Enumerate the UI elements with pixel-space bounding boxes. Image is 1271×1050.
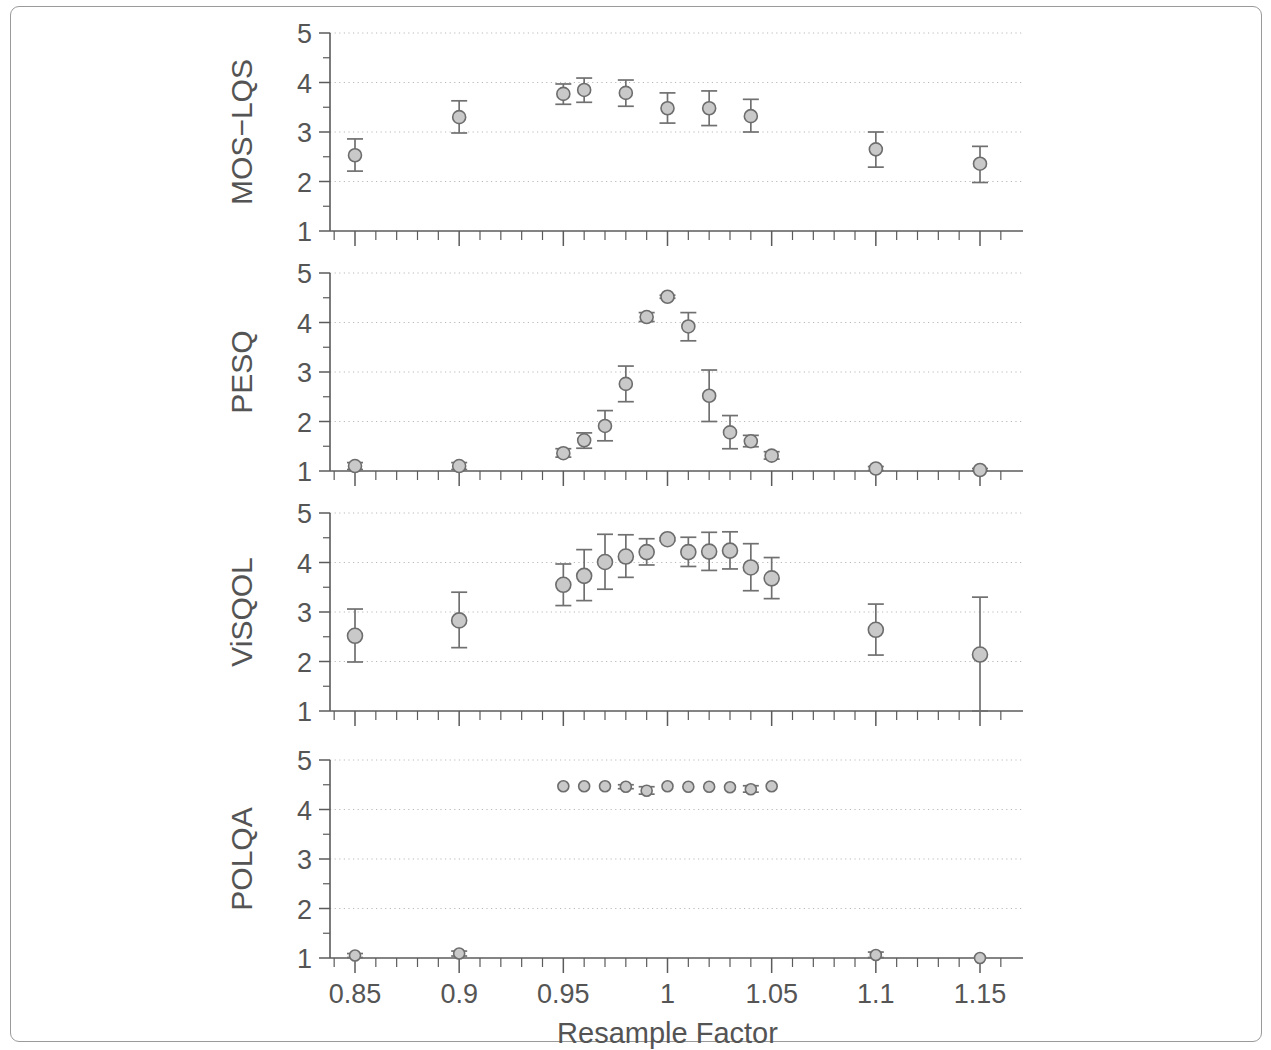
data-point-marker	[660, 532, 675, 547]
data-point-marker	[703, 389, 716, 402]
data-point-marker	[619, 377, 632, 390]
data-point-marker	[598, 555, 613, 570]
y-tick-label: 2	[297, 408, 312, 438]
x-tick-label: 1.05	[745, 979, 798, 1009]
y-tick-label: 3	[297, 845, 312, 875]
data-point-marker	[578, 434, 591, 447]
data-point-marker	[869, 462, 882, 475]
panel-polqa: 12345POLQA	[225, 746, 1023, 974]
data-point-marker	[558, 781, 569, 792]
y-tick-label: 5	[297, 259, 312, 289]
data-point-marker	[349, 460, 362, 473]
data-point-marker	[681, 545, 696, 560]
data-point-marker	[745, 784, 756, 795]
y-tick-label: 5	[297, 499, 312, 529]
data-point-marker	[619, 86, 632, 99]
data-point-marker	[578, 83, 591, 96]
x-axis-title: Resample Factor	[557, 1017, 778, 1049]
data-point-marker	[661, 102, 674, 115]
panel-visqol: 12345ViSQOL	[225, 499, 1023, 727]
multi-panel-chart: 12345MOS−LQS12345PESQ12345ViSQOL12345POL…	[0, 0, 1271, 1050]
data-point-marker	[640, 311, 653, 324]
data-point-marker	[766, 781, 777, 792]
data-point-marker	[869, 143, 882, 156]
data-point-marker	[973, 647, 988, 662]
y-tick-label: 1	[297, 217, 312, 247]
data-point-marker	[703, 102, 716, 115]
y-tick-label: 2	[297, 648, 312, 678]
y-tick-label: 4	[297, 549, 312, 579]
data-point-marker	[870, 950, 881, 961]
data-point-marker	[868, 622, 883, 637]
y-tick-label: 1	[297, 457, 312, 487]
data-point-marker	[577, 568, 592, 583]
data-point-marker	[974, 464, 987, 477]
data-point-marker	[974, 157, 987, 170]
data-point-marker	[975, 953, 986, 964]
data-point-marker	[764, 571, 779, 586]
data-point-marker	[704, 781, 715, 792]
data-point-marker	[599, 419, 612, 432]
data-point-marker	[723, 543, 738, 558]
y-tick-label: 5	[297, 746, 312, 776]
data-point-marker	[579, 781, 590, 792]
data-point-marker	[453, 111, 466, 124]
panel-mos-lqs: 12345MOS−LQS	[225, 19, 1023, 247]
data-point-marker	[743, 560, 758, 575]
data-point-marker	[620, 781, 631, 792]
x-tick-label: 1.15	[954, 979, 1007, 1009]
y-tick-label: 5	[297, 19, 312, 49]
data-point-marker	[556, 577, 571, 592]
y-tick-label: 2	[297, 895, 312, 925]
data-point-marker	[724, 426, 737, 439]
y-tick-label: 4	[297, 69, 312, 99]
data-point-marker	[348, 628, 363, 643]
data-point-marker	[662, 781, 673, 792]
data-point-marker	[350, 950, 361, 961]
data-point-marker	[349, 149, 362, 162]
data-point-marker	[682, 320, 695, 333]
y-tick-label: 1	[297, 944, 312, 974]
y-tick-label: 4	[297, 796, 312, 826]
x-tick-label: 0.85	[329, 979, 382, 1009]
y-tick-label: 2	[297, 168, 312, 198]
data-point-marker	[641, 785, 652, 796]
x-tick-label: 0.9	[440, 979, 478, 1009]
panel-title: PESQ	[225, 330, 258, 413]
data-point-marker	[454, 948, 465, 959]
data-point-marker	[452, 613, 467, 628]
y-tick-label: 3	[297, 598, 312, 628]
panel-title: MOS−LQS	[225, 59, 258, 205]
data-point-marker	[744, 110, 757, 123]
data-point-marker	[765, 449, 778, 462]
x-tick-label: 1.1	[857, 979, 895, 1009]
panel-title: ViSQOL	[225, 557, 258, 667]
y-tick-label: 3	[297, 118, 312, 148]
data-point-marker	[557, 447, 570, 460]
data-point-marker	[661, 290, 674, 303]
data-point-marker	[702, 544, 717, 559]
data-point-marker	[639, 545, 654, 560]
x-tick-label: 1	[660, 979, 675, 1009]
data-point-marker	[557, 87, 570, 100]
y-tick-label: 1	[297, 697, 312, 727]
panel-pesq: 12345PESQ	[225, 259, 1023, 487]
figure-page: 12345MOS−LQS12345PESQ12345ViSQOL12345POL…	[0, 0, 1271, 1050]
data-point-marker	[744, 435, 757, 448]
y-tick-label: 4	[297, 309, 312, 339]
chart-svg: 12345MOS−LQS12345PESQ12345ViSQOL12345POL…	[0, 0, 1271, 1050]
y-tick-label: 3	[297, 358, 312, 388]
panel-title: POLQA	[225, 807, 258, 910]
data-point-marker	[725, 782, 736, 793]
data-point-marker	[618, 549, 633, 564]
x-tick-label: 0.95	[537, 979, 590, 1009]
data-point-marker	[600, 781, 611, 792]
data-point-marker	[453, 460, 466, 473]
data-point-marker	[683, 781, 694, 792]
